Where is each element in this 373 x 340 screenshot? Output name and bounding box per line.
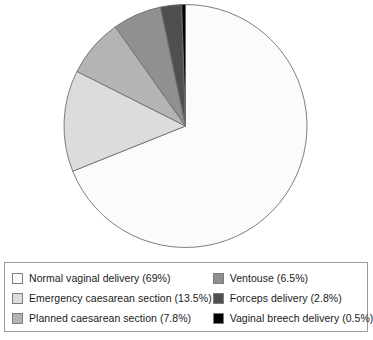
legend-swatch-icon [12, 273, 23, 284]
legend-item-normal-vaginal-delivery[interactable]: Normal vaginal delivery (69%) [12, 268, 212, 288]
pie-chart-svg [0, 0, 373, 252]
chart-legend: Normal vaginal delivery (69%) Emergency … [4, 262, 368, 332]
legend-item-label: Ventouse (6.5%) [230, 272, 308, 284]
legend-item-vaginal-breech-delivery[interactable]: Vaginal breech delivery (0.5%) [213, 308, 373, 328]
legend-column-right: Ventouse (6.5%) Forceps delivery (2.8%) … [212, 268, 373, 331]
pie-slice-group [64, 5, 307, 248]
legend-swatch-icon [12, 293, 23, 304]
legend-item-forceps-delivery[interactable]: Forceps delivery (2.8%) [213, 288, 373, 308]
legend-item-label: Forceps delivery (2.8%) [230, 292, 342, 304]
legend-column-left: Normal vaginal delivery (69%) Emergency … [5, 268, 212, 331]
legend-item-emergency-caesarean-section[interactable]: Emergency caesarean section (13.5%) [12, 288, 212, 308]
legend-swatch-icon [12, 313, 23, 324]
legend-item-ventouse[interactable]: Ventouse (6.5%) [213, 268, 373, 288]
legend-item-label: Normal vaginal delivery (69%) [29, 272, 171, 284]
pie-chart-figure: Normal vaginal delivery (69%) Emergency … [0, 0, 373, 340]
legend-swatch-icon [213, 313, 224, 324]
legend-item-planned-caesarean-section[interactable]: Planned caesarean section (7.8%) [12, 308, 212, 328]
legend-item-label: Planned caesarean section (7.8%) [29, 312, 191, 324]
legend-swatch-icon [213, 273, 224, 284]
legend-columns: Normal vaginal delivery (69%) Emergency … [5, 263, 367, 331]
legend-item-label: Emergency caesarean section (13.5%) [29, 292, 212, 304]
pie-chart-plot-area [0, 0, 373, 252]
legend-item-label: Vaginal breech delivery (0.5%) [230, 312, 373, 324]
legend-swatch-icon [213, 293, 224, 304]
